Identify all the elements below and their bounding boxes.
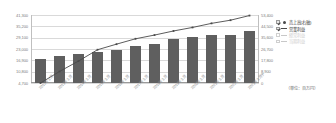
left-axis-tick: 16,900	[2, 58, 28, 63]
left-axis-tick: 29,100	[2, 35, 28, 40]
legend-item[interactable]: 当期利益	[276, 38, 334, 44]
line-marker	[78, 60, 80, 62]
line-marker	[249, 15, 251, 17]
marker-glyph	[283, 21, 286, 24]
line-marker	[211, 22, 213, 24]
line-marker	[230, 19, 232, 21]
line-marker	[135, 38, 137, 40]
legend-checkbox[interactable]	[276, 40, 280, 44]
line-marker	[59, 71, 61, 73]
legend-label: 売上高(右軸)	[289, 19, 312, 25]
marker-glyph	[281, 35, 287, 36]
left-axis-tick: 35,200	[2, 24, 28, 29]
legend-checkbox[interactable]	[276, 33, 280, 37]
right-axis-tick: 17,800	[261, 58, 287, 63]
line-marker	[192, 27, 194, 29]
line-marker-icon	[281, 28, 287, 29]
right-axis-tick: 0	[261, 81, 287, 86]
left-axis-tick: 41,300	[2, 13, 28, 18]
legend-label: 経常利益	[289, 32, 305, 38]
unit-note: （単位：百万円）	[286, 85, 318, 91]
line-marker-icon	[281, 41, 287, 42]
marker-glyph	[281, 28, 287, 29]
dot-marker-icon	[281, 21, 287, 24]
chart-legend: 売上高(右軸)営業利益経常利益当期利益	[276, 19, 334, 45]
left-axis-tick: 10,800	[2, 69, 28, 74]
right-axis-tick: 26,700	[261, 47, 287, 52]
line-marker	[154, 34, 156, 36]
line-marker	[173, 30, 175, 32]
line-marker-icon	[281, 35, 287, 36]
right-axis-tick: 53,400	[261, 13, 287, 18]
legend-label: 営業利益	[289, 26, 305, 32]
left-axis-tick: 4,700	[2, 81, 28, 86]
legend-checkbox[interactable]	[276, 27, 280, 31]
marker-glyph	[281, 41, 287, 42]
line-marker	[97, 49, 99, 51]
chart-screenshot: 4,70010,80016,90023,00029,10035,20041,30…	[0, 0, 336, 123]
legend-checkbox[interactable]	[276, 20, 280, 24]
line-marker	[116, 43, 118, 45]
left-axis-tick: 23,000	[2, 47, 28, 52]
legend-label: 当期利益	[289, 38, 305, 44]
